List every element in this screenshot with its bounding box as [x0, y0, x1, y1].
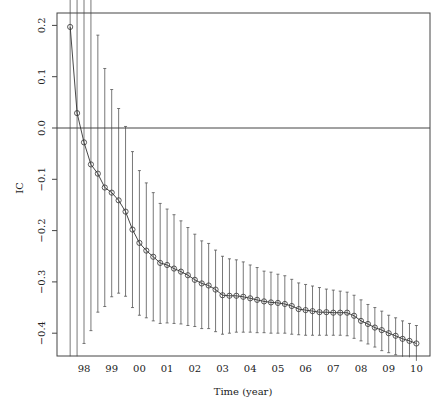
- y-tick-label: 0.0: [36, 120, 47, 136]
- y-tick-label: 0.1: [36, 69, 47, 85]
- error-bars: [70, 0, 418, 361]
- x-tick-label: 10: [410, 363, 423, 374]
- error-bar: [318, 288, 321, 336]
- x-axis: 98990001020304050607080910: [78, 363, 423, 374]
- x-tick-label: 98: [78, 363, 91, 374]
- x-tick-label: 04: [244, 363, 257, 374]
- x-axis-title: Time (year): [214, 386, 273, 397]
- y-tick-label: −0.3: [36, 270, 47, 294]
- x-tick-label: 06: [299, 363, 312, 374]
- error-bar: [346, 292, 349, 336]
- ic-time-series-chart: −0.4−0.3−0.2−0.10.00.10.2 98990001020304…: [0, 0, 442, 404]
- x-tick-label: 01: [161, 363, 174, 374]
- y-axis: −0.4−0.3−0.2−0.10.00.10.2: [36, 17, 57, 345]
- x-tick-label: 03: [216, 363, 229, 374]
- error-bar: [339, 291, 342, 335]
- error-bar: [276, 274, 279, 333]
- error-bar: [186, 228, 189, 326]
- y-tick-label: −0.1: [36, 167, 47, 191]
- x-tick-label: 99: [105, 363, 118, 374]
- y-axis-title: IC: [14, 182, 25, 194]
- y-tick-label: −0.2: [36, 218, 47, 242]
- x-tick-label: 02: [188, 363, 201, 374]
- x-tick-label: 08: [355, 363, 368, 374]
- x-tick-label: 05: [272, 363, 285, 374]
- x-tick-label: 09: [382, 363, 395, 374]
- error-bar: [83, 0, 86, 343]
- y-tick-label: −0.4: [36, 321, 47, 345]
- y-tick-label: 0.2: [36, 17, 47, 33]
- error-bar: [200, 241, 203, 329]
- x-tick-label: 00: [133, 363, 146, 374]
- x-tick-label: 07: [327, 363, 340, 374]
